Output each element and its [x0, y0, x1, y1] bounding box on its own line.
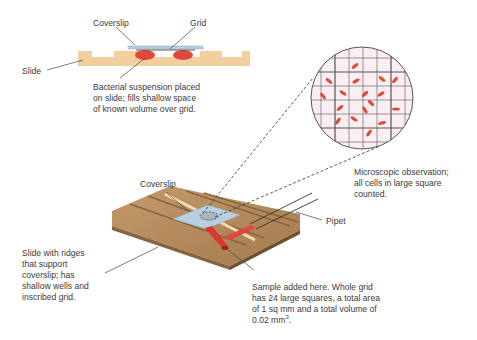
- label-suspension: Bacterial suspension placed on slide; fi…: [93, 82, 200, 115]
- label-coverslip-top: Coverslip: [93, 18, 129, 29]
- suspension-drop-icon: [135, 50, 155, 60]
- slide-3d: [112, 186, 300, 270]
- label-slide-3d: Slide with ridges that support coverslip…: [22, 248, 89, 303]
- counting-chamber-diagram: Coverslip Grid Slide Bacterial suspensio…: [0, 0, 477, 340]
- label-coverslip-3d: Coverslip: [140, 179, 176, 190]
- label-pipet: Pipet: [326, 216, 346, 227]
- label-slide-top: Slide: [22, 66, 41, 77]
- magnified-view: [300, 40, 430, 160]
- label-microscopic: Microscopic observation; all cells in la…: [354, 167, 449, 200]
- label-grid-top: Grid: [190, 18, 206, 29]
- coverslip-icon: [128, 46, 203, 49]
- label-sample: Sample added here. Whole grid has 24 lar…: [252, 282, 380, 326]
- slide-cross-section: [78, 46, 250, 66]
- suspension-drop-icon: [173, 50, 193, 60]
